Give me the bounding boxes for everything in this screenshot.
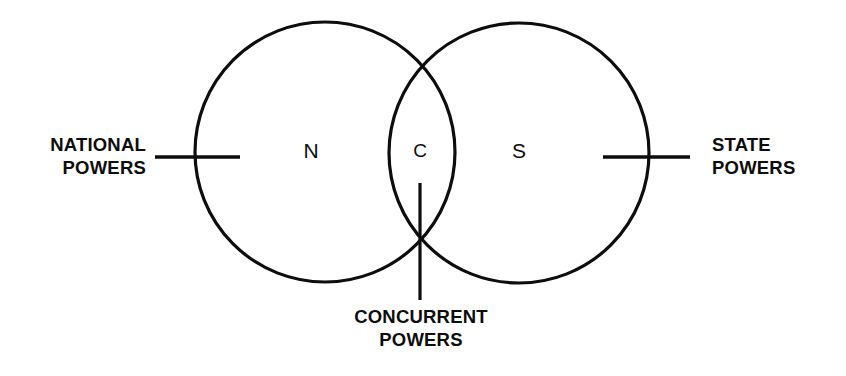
venn-diagram: N C S NATIONAL POWERS STATE POWERS CONCU… [0, 0, 846, 376]
concurrent-powers-caption: CONCURRENT POWERS [325, 306, 517, 351]
national-set-letter: N [299, 138, 323, 164]
concurrent-set-letter: C [408, 139, 432, 162]
state-set-letter: S [507, 138, 531, 164]
national-powers-caption: NATIONAL POWERS [22, 134, 146, 179]
state-powers-caption: STATE POWERS [712, 134, 836, 179]
